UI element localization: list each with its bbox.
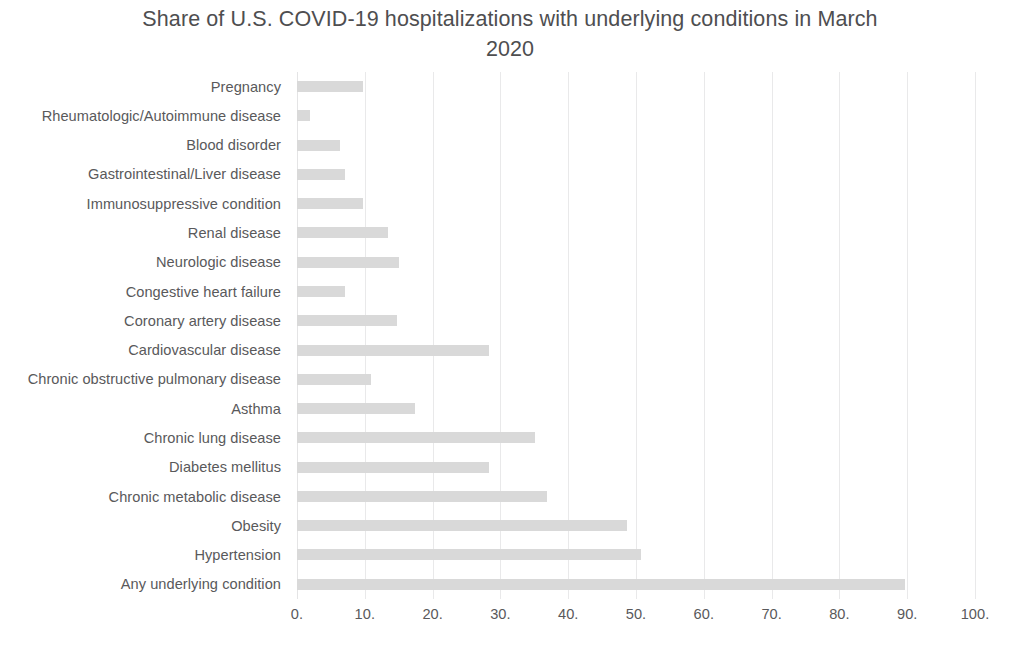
category-label: Rheumatologic/Autoimmune disease	[42, 108, 289, 124]
bar-row	[297, 511, 975, 540]
category-label: Pregnancy	[211, 79, 289, 95]
category-label: Immunosuppressive condition	[87, 196, 289, 212]
bar[interactable]	[297, 169, 345, 180]
category-label-row: Blood disorder	[0, 131, 289, 160]
category-label: Asthma	[231, 401, 289, 417]
bar-row	[297, 423, 975, 452]
bar[interactable]	[297, 286, 345, 297]
x-tick-label: 80.	[829, 606, 849, 622]
bar[interactable]	[297, 227, 388, 238]
category-label-row: Rheumatologic/Autoimmune disease	[0, 101, 289, 130]
category-label-row: Chronic metabolic disease	[0, 482, 289, 511]
category-label-row: Pregnancy	[0, 72, 289, 101]
bar[interactable]	[297, 315, 397, 326]
bar-row	[297, 101, 975, 130]
bar[interactable]	[297, 462, 489, 473]
category-label-row: Asthma	[0, 394, 289, 423]
x-tick-label: 20.	[422, 606, 442, 622]
bar[interactable]	[297, 345, 489, 356]
bar-row	[297, 336, 975, 365]
bar[interactable]	[297, 403, 415, 414]
bar-row	[297, 453, 975, 482]
category-label-row: Any underlying condition	[0, 570, 289, 599]
category-label-row: Congestive heart failure	[0, 277, 289, 306]
gridline	[975, 72, 976, 599]
category-label: Hypertension	[194, 547, 289, 563]
x-tick-label: 40.	[558, 606, 578, 622]
category-label: Chronic lung disease	[144, 430, 289, 446]
category-label-row: Immunosuppressive condition	[0, 189, 289, 218]
category-label-row: Coronary artery disease	[0, 306, 289, 335]
category-label: Renal disease	[188, 225, 289, 241]
x-tick-label: 0.	[291, 606, 303, 622]
bar-row	[297, 394, 975, 423]
bar[interactable]	[297, 374, 371, 385]
bar-row	[297, 131, 975, 160]
category-label-row: Chronic obstructive pulmonary disease	[0, 365, 289, 394]
bar[interactable]	[297, 81, 363, 92]
bar-row	[297, 248, 975, 277]
category-label-row: Chronic lung disease	[0, 423, 289, 452]
category-label: Chronic metabolic disease	[109, 489, 289, 505]
bar-row	[297, 218, 975, 247]
bar-row	[297, 540, 975, 569]
bar[interactable]	[297, 491, 547, 502]
category-label-row: Renal disease	[0, 218, 289, 247]
category-label-row: Neurologic disease	[0, 248, 289, 277]
bar-row	[297, 72, 975, 101]
category-label: Neurologic disease	[156, 254, 289, 270]
x-tick-label: 100.	[961, 606, 990, 622]
category-label-row: Cardiovascular disease	[0, 336, 289, 365]
category-label: Cardiovascular disease	[128, 342, 289, 358]
bar-row	[297, 306, 975, 335]
bar[interactable]	[297, 432, 535, 443]
category-label: Diabetes mellitus	[169, 459, 289, 475]
category-label: Gastrointestinal/Liver disease	[88, 166, 289, 182]
x-tick-label: 90.	[897, 606, 917, 622]
category-label-row: Obesity	[0, 511, 289, 540]
category-label: Congestive heart failure	[126, 284, 289, 300]
bar[interactable]	[297, 579, 905, 590]
bar[interactable]	[297, 549, 641, 560]
bar[interactable]	[297, 198, 363, 209]
x-tick-label: 30.	[490, 606, 510, 622]
category-label-row: Diabetes mellitus	[0, 453, 289, 482]
x-tick-label: 60.	[694, 606, 714, 622]
category-label-row: Hypertension	[0, 540, 289, 569]
bar-chart: Share of U.S. COVID-19 hospitalizations …	[0, 0, 1014, 657]
bar[interactable]	[297, 520, 627, 531]
bar-row	[297, 160, 975, 189]
bar[interactable]	[297, 140, 340, 151]
chart-title: Share of U.S. COVID-19 hospitalizations …	[110, 4, 910, 64]
bar-row	[297, 570, 975, 599]
category-labels: PregnancyRheumatologic/Autoimmune diseas…	[0, 72, 289, 599]
bars-layer	[297, 72, 975, 599]
bar-row	[297, 365, 975, 394]
x-tick-label: 70.	[761, 606, 781, 622]
category-label: Chronic obstructive pulmonary disease	[28, 371, 289, 387]
bar[interactable]	[297, 110, 310, 121]
category-label: Obesity	[231, 518, 289, 534]
bar-row	[297, 482, 975, 511]
x-tick-label: 10.	[355, 606, 375, 622]
category-label: Coronary artery disease	[124, 313, 289, 329]
x-tick-label: 50.	[626, 606, 646, 622]
bar-row	[297, 189, 975, 218]
bar[interactable]	[297, 257, 399, 268]
category-label: Blood disorder	[186, 137, 289, 153]
x-axis-ticks: 0.10.20.30.40.50.60.70.80.90.100.	[297, 606, 975, 636]
bar-row	[297, 277, 975, 306]
category-label-row: Gastrointestinal/Liver disease	[0, 160, 289, 189]
category-label: Any underlying condition	[121, 576, 289, 592]
